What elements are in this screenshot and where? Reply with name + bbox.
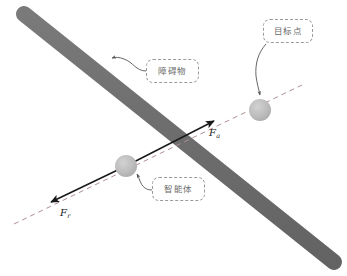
agent-callout: 智能体 (152, 177, 205, 201)
potential-field-figure: 障碍物 目标点 智能体 Fa Fr (0, 0, 347, 276)
target-point-node (249, 99, 271, 121)
target-leader-line (256, 44, 266, 95)
attractive-force-label: Fa (209, 128, 220, 138)
agent-callout-label: 智能体 (164, 185, 192, 194)
attractive-force-symbol: F (209, 127, 216, 138)
repulsive-force-arrow (51, 166, 126, 202)
obstacle-bar (24, 14, 334, 262)
target-callout: 目标点 (263, 19, 313, 43)
repulsive-force-subscript: r (67, 212, 70, 220)
obstacle-callout-label: 障碍物 (158, 67, 186, 76)
attractive-force-subscript: a (216, 132, 220, 140)
repulsive-force-label: Fr (60, 208, 70, 218)
obstacle-callout: 障碍物 (146, 59, 199, 83)
agent-leader-line (137, 174, 152, 190)
target-callout-label: 目标点 (274, 27, 302, 36)
agent-node (115, 155, 137, 177)
repulsive-force-symbol: F (60, 207, 67, 218)
obstacle-leader-line (112, 57, 146, 71)
